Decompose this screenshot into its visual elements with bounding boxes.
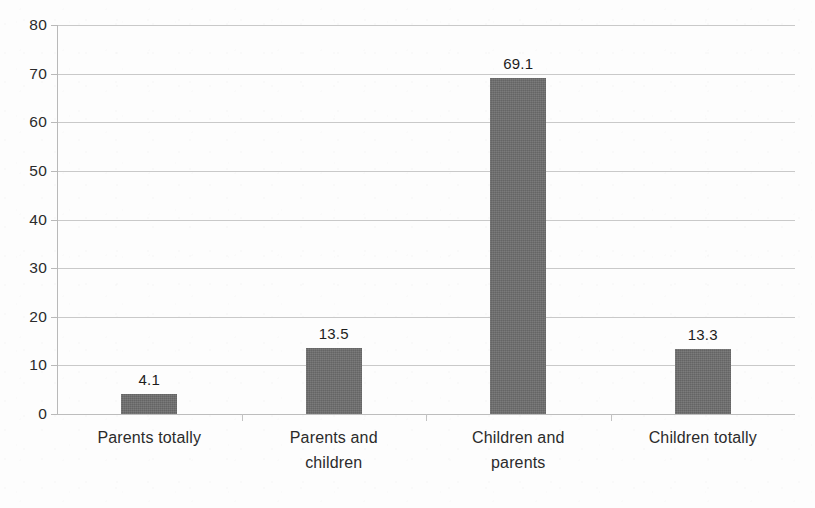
x-axis-label-line: Parents totally (57, 425, 242, 450)
x-axis-separator (242, 414, 243, 421)
x-axis-label-line: Children and (426, 425, 611, 450)
y-axis-label-0: 0 (38, 406, 47, 422)
bar-chart: 01020304050607080 4.113.569.113.3 Parent… (0, 0, 815, 508)
y-axis-label-70: 70 (29, 66, 47, 82)
x-axis-label-line: parents (426, 450, 611, 475)
x-axis-separator (611, 414, 612, 421)
x-axis-category-labels: Parents totallyParents andchildrenChildr… (57, 425, 795, 495)
y-axis-label-30: 30 (29, 260, 47, 276)
bar (490, 78, 546, 414)
bar (121, 394, 177, 414)
y-axis-label-60: 60 (29, 115, 47, 131)
bar (306, 348, 362, 414)
x-axis-label: Children andparents (426, 425, 611, 475)
y-axis-label-50: 50 (29, 163, 47, 179)
x-axis-label: Parents andchildren (242, 425, 427, 475)
bar-value-label: 69.1 (503, 56, 533, 71)
x-axis-separator (426, 414, 427, 421)
x-axis-label-line: Parents and (242, 425, 427, 450)
x-axis-label-line: children (242, 450, 427, 475)
x-axis-label-line: Children totally (611, 425, 796, 450)
chart-plot-area: 4.113.569.113.3 (57, 25, 795, 414)
bar-value-label: 13.5 (319, 326, 349, 341)
x-axis-label: Parents totally (57, 425, 242, 450)
bar-value-label: 4.1 (139, 372, 160, 387)
bar-value-label: 13.3 (688, 327, 718, 342)
y-axis-label-20: 20 (29, 309, 47, 325)
y-axis-label-80: 80 (29, 17, 47, 33)
y-axis-label-10: 10 (29, 358, 47, 374)
y-axis-tick-labels: 01020304050607080 (0, 0, 57, 508)
bar (675, 349, 731, 414)
y-axis-label-40: 40 (29, 212, 47, 228)
x-axis-label: Children totally (611, 425, 796, 450)
